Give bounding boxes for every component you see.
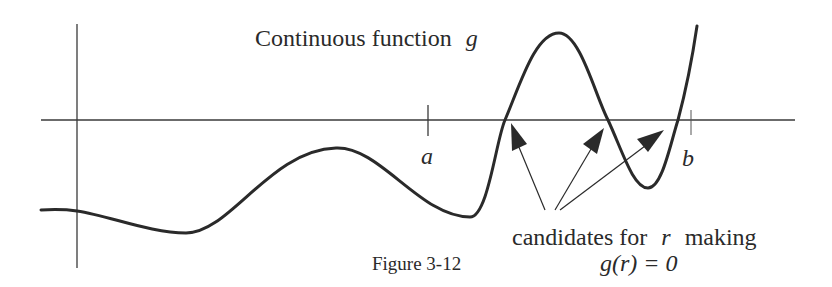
annotation-line-2: g(r) = 0 — [600, 250, 678, 276]
arrow-head-2 — [583, 128, 604, 154]
function-curve-g — [41, 26, 697, 233]
root-arrows — [511, 123, 664, 210]
arrow-head-1 — [511, 123, 527, 151]
arrow-line-1 — [516, 140, 545, 210]
annotation-line-1: candidates for r making — [512, 224, 757, 250]
arrow-line-2 — [555, 144, 594, 210]
label-b: b — [682, 145, 694, 171]
label-a: a — [421, 143, 433, 169]
figure-title: Continuous function g — [255, 25, 478, 51]
figure-caption: Figure 3-12 — [372, 253, 461, 274]
figure-continuous-function: Continuous function g a b candidates for… — [0, 0, 832, 287]
arrow-line-3 — [560, 143, 649, 210]
